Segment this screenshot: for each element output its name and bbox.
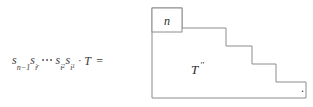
term-s-i-2: si2 (56, 53, 66, 69)
corner-cell-label: n (164, 14, 170, 28)
term-s-i-1: si1 (66, 53, 76, 69)
term-s-i-r: sir (30, 53, 39, 69)
figure-container: sn−1 sir ⋯ si2 si1 · T = n T ′′ . (0, 0, 313, 107)
term-s-n-minus-1: sn−1 (12, 53, 30, 69)
staircase-diagram-svg: n T ′′ (148, 2, 313, 105)
equation-expression: sn−1 sir ⋯ si2 si1 · T = (12, 48, 103, 74)
dot-operator: · (76, 54, 85, 66)
trailing-period: . (301, 82, 304, 94)
term-subscript-suffix: −1 (21, 63, 30, 72)
equals-sign: = (91, 54, 103, 69)
ellipsis: ⋯ (40, 53, 56, 68)
operand-symbol: T (84, 54, 91, 69)
region-label: T (191, 62, 199, 77)
staircase-diagram: n T ′′ . (148, 2, 313, 105)
